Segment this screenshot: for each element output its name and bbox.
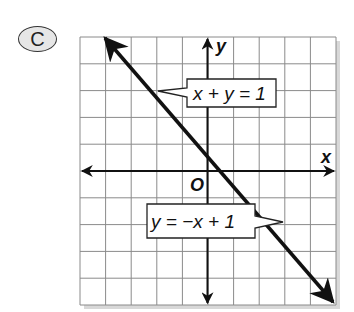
annotation-1-text: x + y = 1: [192, 83, 266, 104]
coordinate-graph: y x O x + y = 1 y = −x + 1: [0, 0, 354, 312]
origin-label: O: [190, 175, 204, 195]
y-axis-label: y: [215, 36, 227, 56]
x-axis-label: x: [320, 147, 332, 167]
annotation-2-text: y = −x + 1: [149, 211, 235, 232]
